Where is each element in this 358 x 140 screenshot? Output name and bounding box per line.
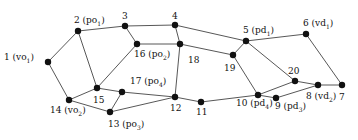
node-label-17: 17 (po4) xyxy=(130,77,166,88)
node-8 xyxy=(315,82,321,88)
node-label-8: 8 (vd2) xyxy=(306,92,336,103)
edge-10-20 xyxy=(258,81,295,95)
node-19 xyxy=(230,52,236,58)
node-label-12: 12 xyxy=(170,104,181,113)
node-label-20: 20 xyxy=(288,67,299,76)
node-label-16: 16 (po2) xyxy=(134,50,170,61)
node-17 xyxy=(119,89,125,95)
edge-19-10 xyxy=(233,55,258,95)
edge-17-12 xyxy=(122,92,175,97)
node-14 xyxy=(66,97,72,103)
node-12 xyxy=(172,94,178,100)
edge-1-14 xyxy=(48,62,69,100)
edge-20-8 xyxy=(295,81,318,85)
edge-15-17 xyxy=(97,88,122,92)
node-15 xyxy=(94,85,100,91)
node-6 xyxy=(303,31,309,37)
node-16 xyxy=(134,41,140,47)
edge-17-13 xyxy=(110,92,122,112)
edge-12-11 xyxy=(175,97,201,102)
node-label-6: 6 (vd1) xyxy=(303,19,333,30)
node-label-13: 13 (po3) xyxy=(108,120,144,131)
node-label-9: 9 (pd3) xyxy=(275,102,306,113)
node-label-4: 4 xyxy=(172,12,178,21)
node-label-11: 11 xyxy=(196,108,207,117)
node-label-15: 15 xyxy=(93,96,104,105)
node-label-10: 10 (pd4) xyxy=(236,99,273,110)
edge-18-12 xyxy=(175,44,180,97)
node-label-1: 1 (vo1) xyxy=(4,53,34,64)
node-label-19: 19 xyxy=(224,64,235,73)
node-3 xyxy=(122,23,128,29)
graph-diagram: 1 (vo1)2 (po1)345 (pd1)6 (vd1)78 (vd2)9 … xyxy=(0,0,358,140)
node-7 xyxy=(339,82,345,88)
node-13 xyxy=(107,109,113,115)
node-11 xyxy=(198,99,204,105)
node-label-5: 5 (pd1) xyxy=(243,26,274,37)
edge-13-12 xyxy=(110,97,175,112)
node-5 xyxy=(243,38,249,44)
edge-18-19 xyxy=(180,44,233,55)
node-label-18: 18 xyxy=(188,56,199,65)
node-label-2: 2 (po1) xyxy=(74,16,105,27)
node-1 xyxy=(45,59,51,65)
edge-4-5 xyxy=(175,25,246,41)
node-label-3: 3 xyxy=(122,12,128,21)
edge-1-2 xyxy=(48,31,78,62)
edge-2-15 xyxy=(78,31,97,88)
node-4 xyxy=(172,22,178,28)
edge-3-4 xyxy=(125,25,175,26)
node-18 xyxy=(177,41,183,47)
node-2 xyxy=(75,28,81,34)
node-label-7: 7 xyxy=(339,93,345,102)
node-20 xyxy=(292,78,298,84)
node-label-14: 14 (vo2) xyxy=(50,106,86,117)
edge-6-7 xyxy=(306,34,342,85)
edge-3-16 xyxy=(125,26,137,44)
